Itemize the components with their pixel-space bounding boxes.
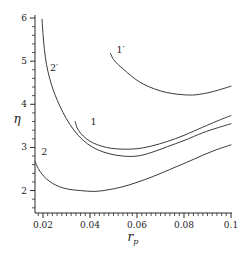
y-tick-label: 5	[21, 56, 27, 66]
x-axis-title-subscript: p	[133, 237, 138, 246]
x-tick-label: 0.08	[174, 220, 194, 230]
y-tick-label: 3	[21, 142, 27, 152]
y-tick-label: 2	[21, 186, 27, 196]
y-tick-label: 4	[21, 99, 27, 109]
y-tick-label: 6	[21, 13, 27, 23]
x-tick-label: 0.04	[80, 220, 100, 230]
curve-2	[35, 145, 231, 192]
x-tick-label: 0.06	[127, 220, 147, 230]
x-tick-label: 0.1	[224, 220, 238, 230]
x-axis-title: rp	[128, 230, 139, 246]
curve-1-label: 1	[90, 116, 96, 127]
y-axis-title: η	[13, 112, 21, 126]
curve-2-label: 2	[41, 146, 47, 157]
curve-2-prime-label: 2′	[50, 62, 58, 73]
x-tick-label: 0.02	[33, 220, 53, 230]
curve-1-prime	[110, 53, 231, 95]
curve-1	[75, 116, 231, 150]
chart-canvas: 0.020.040.060.080.123456ηrp1′2′12	[0, 0, 246, 256]
chart-figure: 0.020.040.060.080.123456ηrp1′2′12	[0, 0, 246, 256]
curve-1-prime-label: 1′	[116, 44, 124, 55]
curve-2-prime	[42, 19, 231, 156]
